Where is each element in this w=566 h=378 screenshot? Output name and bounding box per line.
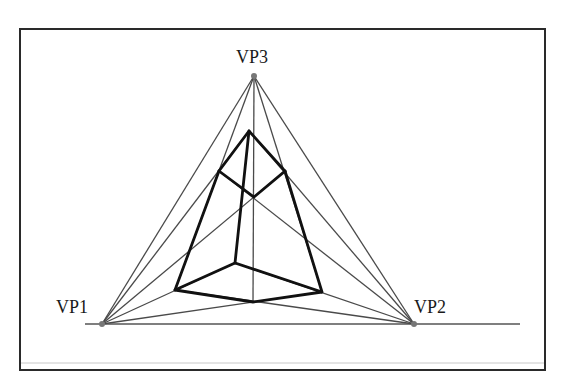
vp2-point [411, 321, 417, 327]
diagram-frame [20, 29, 545, 370]
vp3-point [251, 73, 257, 79]
vp2-label: VP2 [414, 297, 446, 317]
cube [175, 131, 322, 302]
cube-edge-hidden-vertical [235, 131, 249, 263]
vp1-label: VP1 [56, 297, 88, 317]
cube-edge-right-vertical [285, 171, 322, 292]
perspective-diagram: VP1 VP2 VP3 [0, 0, 566, 378]
vp1-point [99, 321, 105, 327]
vp3-label: VP3 [236, 47, 268, 67]
cube-bottom-face [175, 263, 322, 302]
